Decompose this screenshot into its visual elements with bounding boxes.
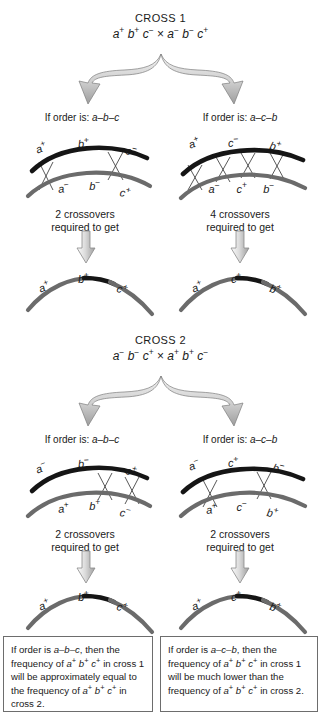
- allele-label: b+: [78, 590, 90, 603]
- cross1-branch2-bottom-alleles: a−c+b−: [175, 138, 315, 210]
- allele-label: b+: [266, 506, 279, 520]
- cross1-branch2-order-label: If order is: a–c–b: [170, 112, 310, 124]
- down-arrow-cross2-branch1: [75, 550, 97, 584]
- cross1-branch1-result-alleles: a+b+c+: [22, 272, 162, 316]
- allele-label: a−: [209, 183, 220, 195]
- allele-label: a−: [58, 181, 70, 194]
- down-arrow-cross1-branch2: [229, 230, 251, 264]
- allele-label: c+: [231, 272, 242, 285]
- allele-label: a+: [37, 597, 52, 612]
- allele-label: c+: [237, 183, 247, 195]
- cross1-genotype: a+ b+ c− × a− b− c+: [0, 27, 321, 41]
- allele-label: c−: [237, 501, 247, 513]
- fork-arrow-cross2: [72, 374, 250, 432]
- allele-label: c+: [231, 590, 242, 603]
- allele-label: a+: [205, 503, 217, 516]
- allele-label: b+: [269, 282, 283, 297]
- allele-label: b−: [263, 183, 274, 195]
- allele-label: c−: [119, 506, 131, 520]
- cross2-branch1-order-label: If order is: a–b–c: [12, 434, 152, 446]
- conclusion-box-right: If order is a–c–b, then the frequency of…: [160, 636, 318, 712]
- allele-label: c+: [116, 282, 129, 296]
- cross1-title: CROSS 1: [0, 12, 321, 25]
- cross2-branch2-order-label: If order is: a–c–b: [170, 434, 310, 446]
- allele-label: a+: [58, 501, 70, 514]
- allele-label: a+: [37, 279, 52, 294]
- cross1-branch2-result-alleles: a+c+b+: [175, 272, 315, 316]
- cross2-branch1-result-alleles: a+b+c+: [22, 590, 162, 634]
- cross2-branch2-result-alleles: a+c+b+: [175, 590, 315, 634]
- allele-label: c+: [116, 600, 129, 614]
- cross1-branch1-bottom-alleles: a−b−c+: [22, 138, 162, 210]
- allele-label: b+: [89, 500, 100, 512]
- allele-label: b+: [78, 272, 90, 285]
- down-arrow-cross2-branch2: [229, 550, 251, 584]
- cross1-branch1-order-label: If order is: a–b–c: [12, 112, 152, 124]
- cross2-branch2-bottom-alleles: a+c−b+: [175, 458, 315, 530]
- cross2-title: CROSS 2: [0, 334, 321, 347]
- cross2-genotype: a− b− c+ × a+ b+ c−: [0, 349, 321, 363]
- genetics-diagram-canvas: CROSS 1 a+ b+ c− × a− b− c+ If order is:…: [0, 0, 321, 719]
- allele-label: b+: [269, 600, 283, 615]
- allele-label: a+: [190, 279, 205, 294]
- fork-arrow-cross1: [72, 52, 250, 110]
- allele-label: a+: [190, 597, 205, 612]
- cross2-branch1-bottom-alleles: a+b+c−: [22, 458, 162, 530]
- allele-label: b−: [89, 180, 100, 192]
- conclusion-box-left: If order is a–b–c, then the frequency of…: [3, 636, 153, 712]
- down-arrow-cross1-branch1: [75, 230, 97, 264]
- allele-label: c+: [119, 186, 131, 200]
